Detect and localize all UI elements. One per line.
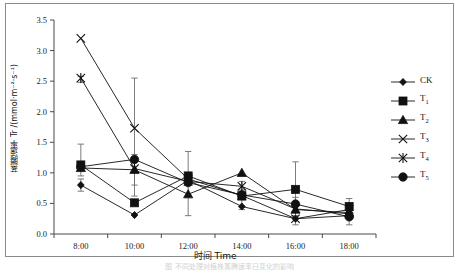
- legend-label: T2: [416, 112, 429, 124]
- series-line-T5: [81, 159, 349, 216]
- legend-label: T5: [416, 169, 429, 181]
- x-tick-label: 14:00: [232, 241, 251, 251]
- marker-CK: [238, 203, 245, 210]
- legend-label: T3: [416, 131, 429, 143]
- marker-CK: [131, 211, 138, 218]
- error-bars: [78, 76, 353, 225]
- series-line-T1: [81, 165, 349, 207]
- marker-T5: [345, 213, 353, 221]
- chart-axes: [54, 20, 376, 234]
- marker-T5: [77, 163, 85, 171]
- marker-T5: [184, 178, 192, 186]
- x-tick-label: 16:00: [286, 241, 305, 251]
- x-tick-label: 18:00: [339, 241, 358, 251]
- series-line-T3: [81, 38, 349, 218]
- legend-marker: [398, 115, 407, 123]
- marker-T5: [130, 155, 138, 163]
- y-tick-label: 2.5: [36, 76, 47, 86]
- marker-T1: [292, 185, 300, 193]
- x-axis-ticks: 8:0010:0012:0014:0016:0018:00: [54, 234, 376, 251]
- y-axis-ticks: 0.00.51.01.52.02.53.03.5: [36, 15, 54, 239]
- legend-marker: [399, 172, 407, 180]
- legend-key-asterisk-icon: [390, 150, 416, 162]
- marker-T5: [291, 200, 299, 208]
- legend-marker: [400, 78, 407, 85]
- legend-item-CK[interactable]: CK: [390, 70, 452, 89]
- legend-label: T1: [416, 93, 429, 105]
- legend-item-T1[interactable]: T1: [390, 89, 452, 108]
- legend-item-T3[interactable]: T3: [390, 127, 452, 146]
- x-tick-label: 12:00: [178, 241, 197, 251]
- y-tick-label: 3.5: [36, 15, 47, 25]
- legend-key-square-icon: [390, 93, 416, 105]
- legend-marker: [399, 97, 407, 105]
- series-line-T2: [81, 168, 349, 213]
- y-tick-label: 0.5: [36, 198, 47, 208]
- legend-key-cross-x-icon: [390, 131, 416, 143]
- y-tick-label: 1.0: [36, 168, 47, 178]
- legend-key-circle-icon: [390, 169, 416, 181]
- legend-label: T4: [416, 150, 429, 162]
- y-tick-label: 0.0: [36, 229, 47, 239]
- x-tick-label: 8:00: [73, 241, 88, 251]
- legend-item-T5[interactable]: T5: [390, 165, 452, 184]
- chart-legend: CKT1T2T3T4T5: [390, 70, 452, 184]
- marker-T5: [238, 191, 246, 199]
- y-tick-label: 2.0: [36, 107, 47, 117]
- legend-key-triangle-icon: [390, 112, 416, 124]
- legend-label: CK: [416, 75, 433, 85]
- legend-item-T2[interactable]: T2: [390, 108, 452, 127]
- y-tick-label: 3.0: [36, 46, 47, 56]
- legend-item-T4[interactable]: T4: [390, 146, 452, 165]
- marker-T1: [131, 199, 139, 207]
- y-tick-label: 1.5: [36, 137, 47, 147]
- marker-T2: [184, 190, 193, 198]
- marker-CK: [77, 181, 84, 188]
- x-tick-label: 10:00: [125, 241, 144, 251]
- figure-caption-text: 图 不同处理对植株蒸腾速率日变化的影响: [5, 262, 454, 273]
- legend-key-diamond-small-icon: [390, 74, 416, 86]
- figure-page: 蒸腾速率 Tr /(mmol·m⁻²·s⁻¹) 0.00.51.01.52.02…: [0, 0, 461, 275]
- marker-T2: [237, 168, 246, 176]
- x-axis-title: 时间 Time: [194, 250, 237, 261]
- figure-caption-strip: 图 不同处理对植株蒸腾速率日变化的影响: [5, 262, 454, 273]
- series-lines: [81, 38, 349, 218]
